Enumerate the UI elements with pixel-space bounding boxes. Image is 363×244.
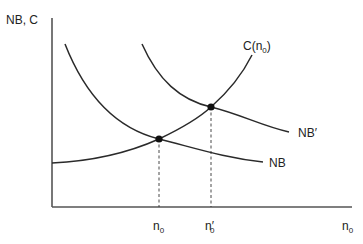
nb-curve [65,44,263,162]
x-axis-label: n0 [342,219,354,235]
nb-prime-label: NB′ [298,126,318,140]
diagram-canvas: NB, C C(n0) NB′ NB n0 n′0 n0 [0,0,363,244]
nb-prime-curve [142,44,289,132]
cost-curve [52,55,252,163]
cost-curve-label: C(n0) [243,39,271,55]
equilibrium-point-original [155,135,162,142]
y-axis-label: NB, C [6,13,38,27]
n0-label: n0 [153,219,165,235]
n0-prime-label: n′0 [205,219,215,235]
nb-label: NB [269,156,286,170]
equilibrium-point-new [207,103,214,110]
